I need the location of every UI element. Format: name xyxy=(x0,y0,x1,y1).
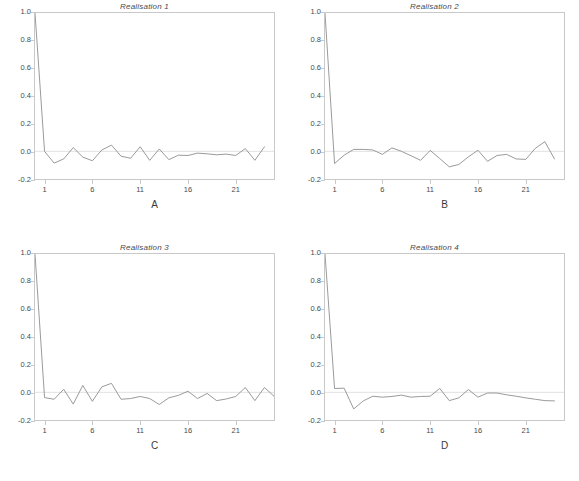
panel-title: Realisation 3 xyxy=(0,243,289,252)
y-tick-label: 0.4 xyxy=(295,91,321,100)
x-tick-mark xyxy=(335,421,336,425)
x-tick-mark xyxy=(92,421,93,425)
panel-title: Realisation 1 xyxy=(0,2,289,11)
x-tick-label: 11 xyxy=(419,426,441,435)
x-tick-label: 1 xyxy=(324,426,346,435)
x-tick-mark xyxy=(478,180,479,184)
x-tick-label: 16 xyxy=(467,426,489,435)
x-tick-mark xyxy=(45,180,46,184)
y-tick-label: 0.8 xyxy=(5,35,31,44)
x-tick-mark xyxy=(526,180,527,184)
y-tick-label: 0.4 xyxy=(5,332,31,341)
x-axis-label: A xyxy=(34,199,275,210)
x-tick-mark xyxy=(430,180,431,184)
y-axis-ticks: -0.20.00.20.40.60.81.0 xyxy=(0,12,31,180)
x-tick-label: 21 xyxy=(225,185,247,194)
x-tick-label: 16 xyxy=(177,426,199,435)
x-axis-label: D xyxy=(324,440,565,451)
panel-realisation-3: Realisation 3 -0.20.00.20.40.60.81.0 161… xyxy=(0,241,289,481)
plot-area xyxy=(324,253,565,421)
panel-realisation-1: Realisation 1 -0.20.00.20.40.60.81.0 161… xyxy=(0,0,289,240)
x-axis-ticks: 16111621 xyxy=(34,421,275,441)
x-tick-mark xyxy=(140,421,141,425)
y-tick-label: 1.0 xyxy=(5,248,31,257)
x-axis-ticks: 16111621 xyxy=(324,421,565,441)
acf-line xyxy=(35,13,264,163)
x-axis-label: B xyxy=(324,199,565,210)
x-tick-mark xyxy=(236,421,237,425)
y-tick-label: 0.6 xyxy=(295,63,321,72)
series-svg xyxy=(35,13,274,179)
x-tick-mark xyxy=(45,421,46,425)
x-tick-label: 21 xyxy=(515,185,537,194)
x-tick-label: 6 xyxy=(81,426,103,435)
x-tick-label: 6 xyxy=(371,185,393,194)
x-tick-label: 11 xyxy=(419,185,441,194)
x-tick-mark xyxy=(335,180,336,184)
y-tick-label: 0.2 xyxy=(295,119,321,128)
series-svg xyxy=(325,13,564,179)
plot-area xyxy=(34,12,275,180)
panel-title: Realisation 4 xyxy=(290,243,579,252)
y-tick-label: -0.2 xyxy=(5,416,31,425)
y-axis-ticks: -0.20.00.20.40.60.81.0 xyxy=(0,253,31,421)
x-tick-label: 21 xyxy=(515,426,537,435)
y-tick-label: 0.6 xyxy=(5,63,31,72)
y-tick-label: 0.0 xyxy=(5,147,31,156)
x-tick-label: 1 xyxy=(324,185,346,194)
x-tick-mark xyxy=(140,180,141,184)
y-tick-label: 0.2 xyxy=(5,360,31,369)
x-tick-label: 1 xyxy=(34,426,56,435)
plot-area xyxy=(34,253,275,421)
y-tick-label: 0.8 xyxy=(5,276,31,285)
y-tick-label: 0.4 xyxy=(295,332,321,341)
panel-title: Realisation 2 xyxy=(290,2,579,11)
y-tick-label: 0.6 xyxy=(5,304,31,313)
x-tick-mark xyxy=(382,180,383,184)
y-tick-label: 0.0 xyxy=(5,388,31,397)
x-tick-label: 21 xyxy=(225,426,247,435)
y-tick-label: 0.0 xyxy=(295,388,321,397)
y-tick-label: 0.8 xyxy=(295,276,321,285)
x-tick-label: 6 xyxy=(81,185,103,194)
y-axis-ticks: -0.20.00.20.40.60.81.0 xyxy=(290,253,321,421)
y-tick-label: 0.4 xyxy=(5,91,31,100)
y-tick-label: 0.2 xyxy=(5,119,31,128)
panel-realisation-4: Realisation 4 -0.20.00.20.40.60.81.0 161… xyxy=(290,241,579,481)
x-tick-mark xyxy=(92,180,93,184)
x-tick-mark xyxy=(236,180,237,184)
x-tick-label: 16 xyxy=(177,185,199,194)
y-tick-label: 0.6 xyxy=(295,304,321,313)
x-tick-mark xyxy=(478,421,479,425)
figure-canvas: Realisation 1 -0.20.00.20.40.60.81.0 161… xyxy=(0,0,579,481)
x-tick-mark xyxy=(188,421,189,425)
acf-line xyxy=(325,254,554,409)
x-tick-label: 16 xyxy=(467,185,489,194)
x-axis-label: C xyxy=(34,440,275,451)
y-tick-label: 1.0 xyxy=(5,7,31,16)
x-tick-mark xyxy=(188,180,189,184)
x-tick-mark xyxy=(526,421,527,425)
y-tick-label: -0.2 xyxy=(5,175,31,184)
acf-line xyxy=(325,13,554,167)
x-axis-ticks: 16111621 xyxy=(324,180,565,200)
y-tick-label: 0.0 xyxy=(295,147,321,156)
y-tick-label: 0.2 xyxy=(295,360,321,369)
series-svg xyxy=(325,254,564,420)
x-tick-label: 11 xyxy=(129,426,151,435)
x-tick-label: 1 xyxy=(34,185,56,194)
panel-realisation-2: Realisation 2 -0.20.00.20.40.60.81.0 161… xyxy=(290,0,579,240)
plot-area xyxy=(324,12,565,180)
y-tick-label: 0.8 xyxy=(295,35,321,44)
y-tick-label: -0.2 xyxy=(295,416,321,425)
x-tick-mark xyxy=(430,421,431,425)
acf-line xyxy=(35,254,274,405)
y-tick-label: 1.0 xyxy=(295,7,321,16)
x-tick-label: 11 xyxy=(129,185,151,194)
x-tick-label: 6 xyxy=(371,426,393,435)
x-tick-mark xyxy=(382,421,383,425)
y-axis-ticks: -0.20.00.20.40.60.81.0 xyxy=(290,12,321,180)
y-tick-label: -0.2 xyxy=(295,175,321,184)
x-axis-ticks: 16111621 xyxy=(34,180,275,200)
y-tick-label: 1.0 xyxy=(295,248,321,257)
